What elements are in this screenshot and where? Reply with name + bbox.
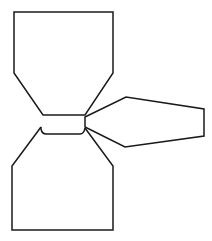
center-connector — [41, 127, 85, 134]
right-hexagon — [85, 97, 204, 147]
top-hexagon — [14, 12, 113, 115]
bottom-hexagon — [12, 127, 113, 230]
diagram-canvas — [0, 0, 212, 241]
